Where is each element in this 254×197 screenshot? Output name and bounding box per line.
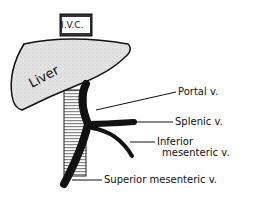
diagram-drawing [0, 0, 254, 197]
portal-venous-diagram: I.V.C. Liver Portal v. Splenic v. Inferi… [0, 0, 254, 197]
superior-mesenteric-label: Superior mesenteric v. [104, 175, 217, 185]
inferior-mesenteric-label-2: mesenteric v. [162, 148, 230, 158]
ivc-label: I.V.C. [61, 20, 84, 30]
portal-vein-label: Portal v. [178, 87, 218, 97]
inferior-mesenteric-label-1: Inferior [157, 137, 193, 147]
splenic-vein-label: Splenic v. [175, 117, 223, 127]
